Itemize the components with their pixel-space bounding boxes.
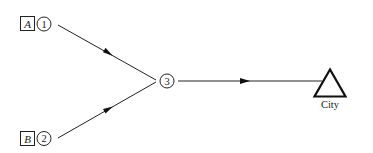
city-sink: City xyxy=(315,70,346,111)
source-b: B xyxy=(21,132,35,146)
source-b-label: B xyxy=(24,133,31,145)
node-3-label: 3 xyxy=(164,76,169,87)
edge-2-to-3 xyxy=(58,82,156,138)
node-3: 3 xyxy=(160,74,174,88)
node-1: 1 xyxy=(37,17,51,31)
arrow-right-icon xyxy=(103,48,113,56)
city-label: City xyxy=(321,99,340,110)
node-2: 2 xyxy=(37,132,51,146)
flow-diagram: A 1 B 2 3 City xyxy=(0,0,373,153)
arrow-right-icon xyxy=(240,78,250,84)
edge-1-to-3 xyxy=(58,25,156,80)
node-2-label: 2 xyxy=(41,133,46,144)
arrow-right-icon xyxy=(103,107,113,114)
edge-3-to-city xyxy=(178,78,322,84)
city-triangle-icon xyxy=(315,70,346,97)
source-a-label: A xyxy=(23,18,31,30)
node-1-label: 1 xyxy=(41,19,46,30)
source-a: A xyxy=(21,17,35,31)
